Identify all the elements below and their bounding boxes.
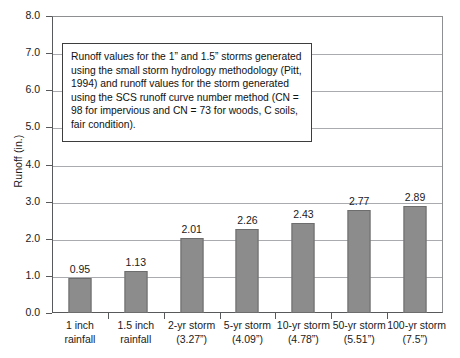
y-tick-label: 0.0: [6, 306, 40, 318]
bar: [68, 278, 91, 313]
bar-value-label: 1.13: [126, 256, 146, 268]
x-axis-label-line2: rainfall: [52, 333, 108, 347]
bar: [348, 210, 371, 313]
x-axis-label-line1: 50-yr storm: [331, 319, 387, 333]
x-axis-label-line1: 100-yr storm: [387, 319, 443, 333]
bar-value-label: 2.01: [181, 223, 201, 235]
x-axis-label-line1: 10-yr storm: [275, 319, 331, 333]
runoff-bar-chart: Runoff (in.) 0.01.02.03.04.05.06.07.08.0…: [0, 0, 460, 358]
bar-value-label: 0.95: [70, 263, 90, 275]
annotation-callout: Runoff values for the 1” and 1.5” storms…: [62, 43, 312, 142]
bar: [180, 238, 203, 313]
x-axis-label-line2: (7.5”): [387, 333, 443, 347]
y-tick-label: 6.0: [6, 83, 40, 95]
bar-group: 2.77: [331, 16, 387, 313]
bar: [404, 206, 427, 313]
y-tick-mark: [46, 313, 52, 314]
y-tick-label: 2.0: [6, 232, 40, 244]
bar-group: 2.89: [387, 16, 443, 313]
y-tick-label: 7.0: [6, 46, 40, 58]
x-axis-label-line1: 5-yr storm: [220, 319, 276, 333]
bar-value-label: 2.43: [293, 208, 313, 220]
y-tick-label: 1.0: [6, 269, 40, 281]
x-axis-label-line1: 2-yr storm: [164, 319, 220, 333]
bar-value-label: 2.26: [237, 214, 257, 226]
x-axis-label: 50-yr storm(5.51”): [331, 319, 387, 346]
x-axis-labels: 1 inchrainfall1.5 inchrainfall2-yr storm…: [52, 319, 443, 355]
x-axis-label-line2: (3.27”): [164, 333, 220, 347]
x-axis-label-line2: (4.78”): [275, 333, 331, 347]
x-axis-label-line1: 1.5 inch: [108, 319, 164, 333]
x-axis-label: 10-yr storm(4.78”): [275, 319, 331, 346]
bar-value-label: 2.77: [349, 195, 369, 207]
x-axis-label-line2: (5.51”): [331, 333, 387, 347]
x-axis-label-line2: (4.09”): [220, 333, 276, 347]
bar: [292, 223, 315, 313]
y-tick-label: 3.0: [6, 195, 40, 207]
bar-value-label: 2.89: [405, 191, 425, 203]
bar: [124, 271, 147, 313]
y-tick-label: 8.0: [6, 9, 40, 21]
annotation-text: Runoff values for the 1” and 1.5” storms…: [71, 50, 304, 132]
y-tick-label: 4.0: [6, 158, 40, 170]
x-axis-label: 100-yr storm(7.5”): [387, 319, 443, 346]
x-axis-label: 1.5 inchrainfall: [108, 319, 164, 346]
x-axis-label: 2-yr storm(3.27”): [164, 319, 220, 346]
x-axis-label-line2: rainfall: [108, 333, 164, 347]
x-axis-label: 5-yr storm(4.09”): [220, 319, 276, 346]
x-axis-label-line1: 1 inch: [52, 319, 108, 333]
x-axis-label: 1 inchrainfall: [52, 319, 108, 346]
y-tick-label: 5.0: [6, 120, 40, 132]
bar: [236, 229, 259, 313]
